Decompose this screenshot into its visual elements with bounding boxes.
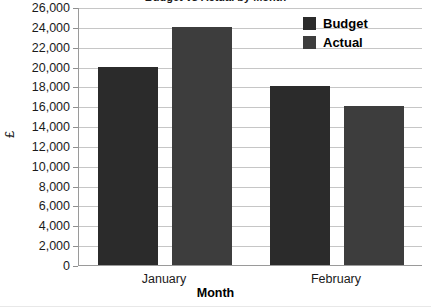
chart-legend: BudgetActual [303,14,415,52]
x-axis-tick-label: February [286,272,386,286]
y-axis-tickmark [73,167,78,168]
page-bottom-divider [0,306,431,307]
bar [270,86,330,265]
bar [172,27,232,265]
bar-chart: Budget vs Actual by Month £ 26,00024,000… [0,0,431,308]
y-axis-tick-label: 10,000 [8,161,70,173]
y-axis-tickmark [73,187,78,188]
y-axis-tickmark [73,127,78,128]
y-axis-tick-label: 20,000 [8,62,70,74]
y-axis-tick-label: 0 [8,260,70,272]
y-axis-tick-label: 18,000 [8,81,70,93]
y-axis-tickmark [73,48,78,49]
y-axis-tickmark [73,226,78,227]
y-axis-tick-label: 14,000 [8,121,70,133]
y-axis-tick-label: 8,000 [8,181,70,193]
legend-item[interactable]: Actual [303,33,415,52]
y-axis-tickmark [73,87,78,88]
y-axis-tickmark [73,206,78,207]
x-axis-tick-label: January [114,272,214,286]
y-axis-tick-label: 26,000 [8,2,70,14]
y-axis-tick-label: 22,000 [8,42,70,54]
y-axis-tick-label: 4,000 [8,220,70,232]
y-axis-tick-label: 16,000 [8,101,70,113]
y-axis-tickmark [73,246,78,247]
bar [344,106,404,265]
y-axis-tickmark [73,28,78,29]
legend-label: Budget [323,16,368,31]
y-axis-tick-label: 12,000 [8,141,70,153]
x-axis-title: Month [0,286,431,300]
y-axis-tickmark [73,147,78,148]
y-axis-tickmark [73,266,78,267]
y-axis-tickmark [73,8,78,9]
y-axis-tick-label: 2,000 [8,240,70,252]
legend-label: Actual [323,35,363,50]
bar [98,67,158,265]
y-axis-tickmark [73,107,78,108]
gridline [79,8,422,9]
legend-item[interactable]: Budget [303,14,415,33]
legend-swatch [303,36,316,49]
y-axis-tick-label: 24,000 [8,22,70,34]
y-axis-tickmark [73,68,78,69]
legend-swatch [303,17,316,30]
y-axis-tick-label: 6,000 [8,200,70,212]
